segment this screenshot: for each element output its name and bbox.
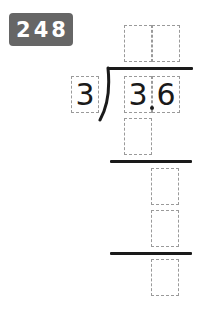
- remainder-box[interactable]: [151, 259, 179, 296]
- decimal-point: [150, 106, 154, 110]
- dividend-digit-1: 3: [124, 76, 152, 113]
- work-box-1[interactable]: [124, 118, 152, 155]
- divisor-box: 3: [71, 76, 99, 113]
- subtraction-line-1: [110, 160, 192, 163]
- problem-number-badge: 248: [9, 13, 73, 46]
- dividend-digit-2: 6: [152, 76, 180, 113]
- division-bar: [107, 67, 193, 70]
- work-box-3[interactable]: [151, 210, 179, 247]
- quotient-box-1[interactable]: [124, 25, 152, 62]
- work-box-2[interactable]: [151, 168, 179, 205]
- quotient-box-2[interactable]: [152, 25, 180, 62]
- subtraction-line-2: [110, 252, 192, 255]
